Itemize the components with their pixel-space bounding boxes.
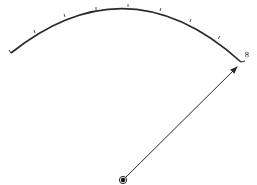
- gauge-diagram: [0, 0, 257, 185]
- scale-arc: [11, 9, 241, 62]
- radius-arrow: [125, 67, 237, 178]
- infinity-label: ∞: [242, 51, 251, 59]
- arc-end-cap: [241, 61, 245, 62]
- arc-start-cap: [9, 50, 11, 53]
